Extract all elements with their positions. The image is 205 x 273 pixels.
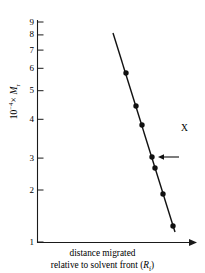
y-tick-label: 3 bbox=[20, 154, 34, 163]
data-point bbox=[139, 122, 144, 127]
data-point bbox=[123, 70, 128, 75]
data-point bbox=[152, 165, 157, 170]
data-point bbox=[160, 191, 165, 196]
fit-line bbox=[113, 33, 175, 232]
y-axis-title: 10−4× Mr bbox=[8, 57, 22, 147]
y-tick-label: 9 bbox=[20, 18, 34, 27]
y-tick-label: 7 bbox=[20, 46, 34, 55]
chart-plot-area bbox=[0, 0, 205, 273]
x-axis-title: distance migrated relative to solvent fr… bbox=[0, 247, 205, 273]
x-axis-arrowhead bbox=[189, 239, 197, 246]
x-axis-title-line2-prefix: relative to solvent front ( bbox=[51, 260, 143, 270]
x-axis-title-line2: relative to solvent front (Rf) bbox=[0, 259, 205, 273]
y-axis-title-exponent: −4 bbox=[7, 102, 14, 109]
y-tick-label: 1 bbox=[20, 238, 34, 247]
data-point bbox=[149, 154, 154, 159]
annotation-label-x: X bbox=[181, 124, 188, 134]
y-axis-title-base: 10 bbox=[9, 110, 19, 120]
annotation-arrow bbox=[158, 154, 179, 160]
chart-figure: 9 8 7 6 5 4 3 2 1 10−4× Mr distance migr… bbox=[0, 0, 205, 273]
data-point bbox=[170, 223, 175, 228]
y-axis-title-symbol: M bbox=[9, 87, 19, 95]
y-tick-label: 2 bbox=[20, 186, 34, 195]
y-tick-label: 6 bbox=[20, 64, 34, 73]
y-tick-label: 4 bbox=[20, 115, 34, 124]
y-axis-title-times: × bbox=[9, 97, 19, 102]
x-axis-title-line2-suffix: ) bbox=[151, 260, 154, 270]
data-point bbox=[133, 103, 138, 108]
y-tick-label: 8 bbox=[20, 30, 34, 39]
y-axis-ticks bbox=[38, 22, 44, 242]
x-axis-title-line1: distance migrated bbox=[0, 247, 205, 259]
y-axis-title-subscript: r bbox=[14, 84, 21, 86]
y-tick-label: 5 bbox=[20, 86, 34, 95]
